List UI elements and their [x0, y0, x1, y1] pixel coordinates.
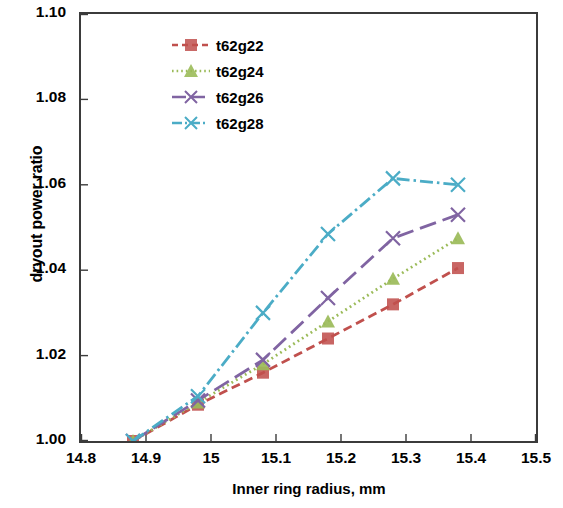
x-tick-label: 15.2: [309, 449, 373, 467]
y-tick-label: 1.02: [0, 345, 66, 363]
x-tick-label: 15.4: [439, 449, 503, 467]
legend-key-t62g26: [171, 87, 211, 107]
y-tick-label: 1.00: [0, 430, 66, 448]
x-tick-label: 15: [179, 449, 243, 467]
series-t62g28: [126, 171, 465, 441]
y-tick-label: 1.10: [0, 3, 66, 21]
legend-label-t62g28: t62g28: [216, 115, 264, 132]
y-tick-label: 1.04: [0, 259, 66, 277]
plot-area: t62g22 t62g24 t62g26: [79, 12, 538, 443]
y-tick-label: 1.08: [0, 88, 66, 106]
x-tick-label: 15.1: [244, 449, 308, 467]
chart-figure: dryout power ratio 1.001.021.041.061.081…: [0, 0, 563, 508]
x-tick-label: 15.5: [504, 449, 563, 467]
x-axis-label: Inner ring radius, mm: [79, 480, 539, 497]
legend-item: t62g26: [171, 84, 351, 110]
series-t62g26: [126, 208, 465, 441]
legend-key-t62g24: [171, 61, 211, 81]
x-tick-label: 14.8: [49, 449, 113, 467]
legend-key-t62g28: [171, 113, 211, 133]
chart-legend: t62g22 t62g24 t62g26: [171, 32, 351, 136]
legend-label-t62g22: t62g22: [216, 37, 264, 54]
legend-item: t62g28: [171, 110, 351, 136]
legend-label-t62g26: t62g26: [216, 89, 264, 106]
y-tick-label: 1.06: [0, 174, 66, 192]
y-axis-label: dryout power ratio: [28, 99, 46, 329]
legend-item: t62g22: [171, 32, 351, 58]
legend-key-t62g22: [171, 35, 211, 55]
x-tick-label: 15.3: [374, 449, 438, 467]
legend-item: t62g24: [171, 58, 351, 84]
legend-label-t62g24: t62g24: [216, 63, 264, 80]
x-tick-label: 14.9: [114, 449, 178, 467]
